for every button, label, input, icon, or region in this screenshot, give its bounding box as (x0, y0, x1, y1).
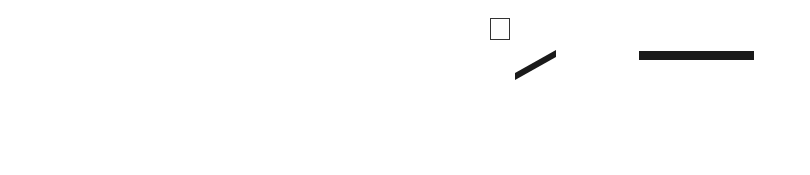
slanted-beam (515, 50, 556, 80)
rhythm-staff (0, 0, 810, 175)
flat-beam (639, 51, 754, 60)
beams (515, 50, 754, 80)
